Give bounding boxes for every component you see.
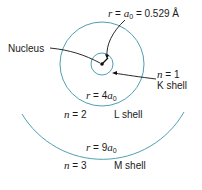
l-shell-n-label: n = 2 (64, 109, 86, 120)
m-shell-name: M shell (114, 160, 146, 171)
m-shell-n-label: n = 3 (64, 160, 86, 171)
k-shell-n-label: n = 1 (157, 69, 179, 80)
nucleus-arrow (50, 48, 100, 63)
l-shell-radius: r = 4a0 (86, 90, 117, 104)
k-shell-name: K shell (157, 80, 187, 91)
bohr-radius-label: r = a0 = 0.529 Å (108, 8, 179, 22)
a0-arrow (107, 20, 125, 57)
radius-a0-line (102, 58, 108, 64)
nucleus-label: Nucleus (8, 43, 44, 54)
m-shell-radius: r = 9a0 (86, 142, 117, 156)
k-shell-arrow (114, 73, 156, 79)
l-shell-name: L shell (114, 109, 143, 120)
k-shell-arrowhead (112, 71, 117, 75)
